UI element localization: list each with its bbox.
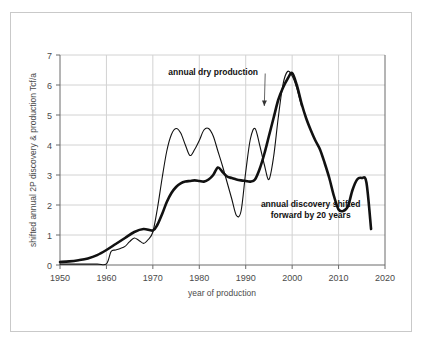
x-tick-label: 2020 <box>375 273 395 283</box>
x-axis-title: year of production <box>188 288 256 298</box>
x-tick-label: 2000 <box>282 273 302 283</box>
annotation-line: annual discovery shifted <box>261 199 361 209</box>
x-tick-label: 1950 <box>50 273 70 283</box>
x-tick-label: 1980 <box>189 273 209 283</box>
x-tick-label: 1990 <box>236 273 256 283</box>
axes-layer <box>60 55 385 265</box>
arrowhead-icon <box>262 101 267 107</box>
x-tick-label: 1960 <box>96 273 116 283</box>
y-tick-label: 7 <box>47 51 52 61</box>
y-tick-label: 3 <box>47 171 52 181</box>
grid-layer <box>60 55 385 265</box>
line-chart: 0123456719501960197019801990200020102020… <box>0 0 424 346</box>
annotation-line: forward by 20 years <box>271 210 351 220</box>
x-tick-label: 2010 <box>329 273 349 283</box>
y-tick-label: 6 <box>47 81 52 91</box>
annotation-layer: annual dry productionannual discovery sh… <box>168 67 360 220</box>
series-annual-discovery-shifted <box>60 71 301 265</box>
y-tick-label: 1 <box>47 231 52 241</box>
annotation-production-label: annual dry production <box>168 67 258 77</box>
y-tick-label: 5 <box>47 111 52 121</box>
y-tick-label: 4 <box>47 141 52 151</box>
y-axis-title: shifted annual 2P discovery & production… <box>28 73 38 247</box>
x-tick-label: 1970 <box>143 273 163 283</box>
y-tick-label: 0 <box>47 261 52 271</box>
annotation-discovery-label: annual discovery shiftedforward by 20 ye… <box>261 199 361 220</box>
y-tick-label: 2 <box>47 201 52 211</box>
chart-container: 0123456719501960197019801990200020102020… <box>0 0 424 346</box>
